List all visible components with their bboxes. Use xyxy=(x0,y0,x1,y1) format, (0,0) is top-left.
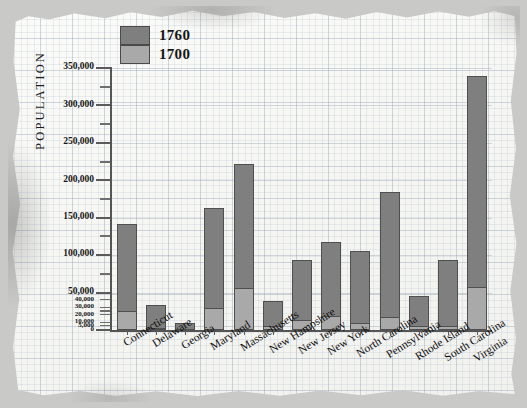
y-tick-label: 100,000 xyxy=(0,249,94,259)
y-tick-label: 200,000 xyxy=(0,175,94,185)
bar-north-carolina[interactable] xyxy=(350,251,370,330)
x-tick xyxy=(185,330,186,335)
x-tick xyxy=(419,330,420,335)
bar-segment-1760 xyxy=(350,251,370,330)
y-tick-label-wrap: 100,000 xyxy=(0,249,94,259)
y-tick-label-wrap: 0 xyxy=(0,326,94,333)
legend-item-1700: 1700 xyxy=(120,45,190,64)
y-tick-label: 250,000 xyxy=(0,137,94,147)
y-tick-label-wrap: 150,000 xyxy=(0,212,94,222)
x-tick xyxy=(214,330,215,335)
bar-pennsylvania[interactable] xyxy=(380,192,400,330)
y-tick-label-wrap: 300,000 xyxy=(0,100,94,110)
y-tick-label: 350,000 xyxy=(0,62,94,72)
y-tick-label: 300,000 xyxy=(0,100,94,110)
x-tick xyxy=(302,330,303,335)
legend-swatch-1700 xyxy=(120,45,150,64)
x-tick xyxy=(390,330,391,335)
bar-maryland[interactable] xyxy=(204,208,224,330)
bar-series-group xyxy=(112,68,492,330)
y-tick-label-wrap: 250,000 xyxy=(0,137,94,147)
bar-segment-1700 xyxy=(467,287,487,330)
x-tick xyxy=(477,330,478,335)
y-tick-label-wrap: 350,000 xyxy=(0,62,94,72)
bar-chart: 1760 1700 POPULATION 50,000100,000150,00… xyxy=(0,0,527,408)
legend-item-1760: 1760 xyxy=(120,26,190,45)
x-tick xyxy=(273,330,274,335)
y-tick-label-wrap: 200,000 xyxy=(0,175,94,185)
y-tick-label: 30,000 xyxy=(0,303,94,310)
y-axis-title: POPULATION xyxy=(33,30,48,150)
bar-segment-1700 xyxy=(117,311,137,330)
bar-massachusetts[interactable] xyxy=(234,164,254,330)
bar-segment-1760 xyxy=(438,260,458,330)
legend-swatch-1760 xyxy=(120,26,150,45)
legend-label-1760: 1760 xyxy=(159,28,190,43)
y-tick-label-wrap: 30,000 xyxy=(0,303,94,310)
chart-legend: 1760 1700 xyxy=(120,26,190,64)
x-tick xyxy=(360,330,361,335)
screenshot-root: 1760 1700 POPULATION 50,000100,000150,00… xyxy=(0,0,527,408)
bar-south-carolina[interactable] xyxy=(438,260,458,330)
legend-label-1700: 1700 xyxy=(159,47,190,62)
x-tick xyxy=(244,330,245,335)
bar-virginia[interactable] xyxy=(467,76,487,331)
y-tick-label: 0 xyxy=(0,326,94,333)
bar-segment-1760 xyxy=(380,192,400,330)
x-tick xyxy=(448,330,449,335)
x-tick xyxy=(331,330,332,335)
bar-connecticut[interactable] xyxy=(117,224,137,330)
y-tick-label: 150,000 xyxy=(0,212,94,222)
